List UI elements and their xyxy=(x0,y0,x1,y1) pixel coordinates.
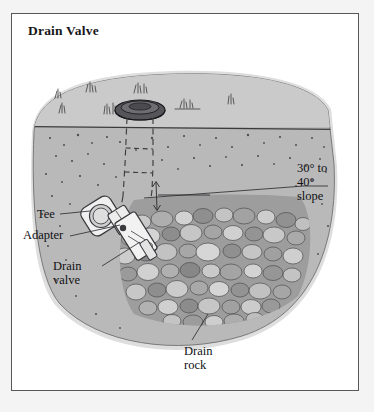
valve-joint-node xyxy=(120,225,126,231)
label-adapter: Adapter xyxy=(23,228,63,242)
figure-frame: Drain Valve xyxy=(11,13,359,391)
page-root: Drain Valve xyxy=(0,0,374,412)
valve-box-lid[interactable] xyxy=(115,100,165,120)
label-drain-rock: Drain rock xyxy=(184,344,212,372)
mound-cap xyxy=(22,54,347,127)
label-tee: Tee xyxy=(37,207,55,221)
label-slope: 30° to 40° slope xyxy=(297,161,327,203)
label-drain-valve: Drain valve xyxy=(53,259,81,287)
